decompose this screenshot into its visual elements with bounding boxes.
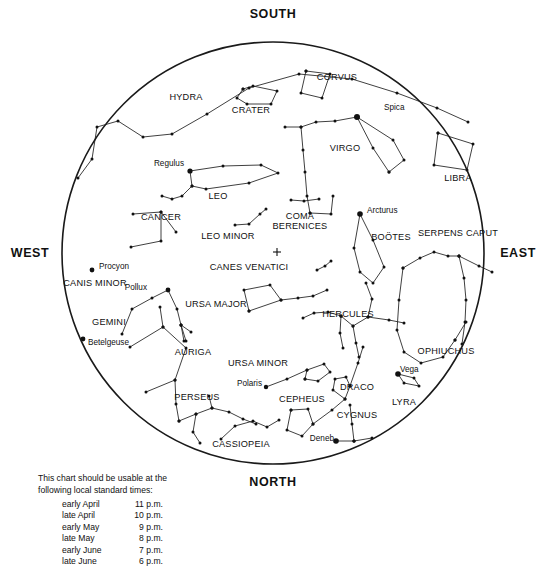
- star-point: [304, 171, 307, 174]
- star-point: [447, 255, 450, 258]
- legend-time-label: 11 p.m.: [135, 499, 163, 509]
- cardinal-label-west: WEST: [11, 246, 50, 260]
- star-point: [334, 120, 337, 123]
- star-point: [437, 132, 440, 135]
- star-point: [318, 198, 321, 201]
- star-point: [178, 420, 181, 423]
- star-label-betelgeuse: Betelgeuse: [88, 338, 129, 347]
- star-point: [396, 329, 399, 332]
- star-point: [206, 113, 209, 116]
- bright-star-pollux: [166, 288, 171, 293]
- star-point: [242, 418, 245, 421]
- star-point: [359, 271, 362, 274]
- star-point: [117, 120, 120, 123]
- star-point: [290, 199, 293, 202]
- star-point: [326, 289, 329, 292]
- cardinal-label-south: SOUTH: [250, 7, 297, 21]
- star-point: [236, 97, 239, 100]
- constellation-label-ursa-major: URSA MAJOR: [185, 299, 247, 309]
- star-point: [491, 271, 494, 274]
- star-point: [284, 126, 287, 129]
- bright-star-procyon: [90, 268, 95, 273]
- star-point: [419, 257, 422, 260]
- star-point: [332, 389, 335, 392]
- star-point: [252, 85, 255, 88]
- star-point: [433, 164, 436, 167]
- bright-star-arcturus: [357, 211, 363, 217]
- star-point: [321, 97, 324, 100]
- star-point: [402, 267, 405, 270]
- star-point: [365, 282, 368, 285]
- star-point: [313, 312, 316, 315]
- constellation-label-hercules: HERCULES: [322, 309, 374, 319]
- legend-time-label: 7 p.m.: [139, 545, 163, 555]
- star-point: [259, 213, 262, 216]
- star-point: [145, 391, 148, 394]
- constellation-label-canes-venatici: CANES VENATICI: [210, 262, 289, 272]
- star-point: [339, 332, 342, 335]
- star-point: [388, 319, 391, 322]
- star-point: [331, 409, 334, 412]
- star-point: [344, 398, 347, 401]
- star-point: [329, 371, 332, 374]
- star-point: [266, 426, 269, 429]
- star-point: [403, 159, 406, 162]
- star-point: [317, 380, 320, 383]
- constellation-label-gemini: GEMINI: [92, 317, 126, 327]
- star-point: [297, 297, 300, 300]
- star-point: [304, 378, 307, 381]
- star-point: [175, 231, 178, 234]
- constellation-label-leo-minor: LEO MINOR: [201, 231, 255, 241]
- star-point: [357, 362, 360, 365]
- star-point: [298, 73, 301, 76]
- star-point: [388, 171, 391, 174]
- star-point: [181, 195, 184, 198]
- star-point: [171, 198, 174, 201]
- star-point: [463, 277, 466, 280]
- star-point: [312, 295, 315, 298]
- star-point: [162, 326, 165, 329]
- star-point: [171, 133, 174, 136]
- star-point: [243, 289, 246, 292]
- star-label-deneb: Deneb: [310, 434, 335, 443]
- legend-period-label: early April: [62, 499, 100, 509]
- star-label-arcturus: Arcturus: [367, 206, 397, 215]
- star-point: [306, 369, 309, 372]
- star-point: [280, 299, 283, 302]
- star-point: [176, 308, 179, 311]
- constellation-label-ursa-minor: URSA MINOR: [228, 358, 288, 368]
- star-point: [418, 385, 421, 388]
- star-point: [334, 378, 337, 381]
- star-point: [302, 149, 305, 152]
- constellation-label-cygnus: CYGNUS: [337, 410, 378, 420]
- star-point: [352, 325, 355, 328]
- star-chart: HYDRACRATERCORVUSVIRGOLIBRALEOCANCERLEO …: [0, 0, 550, 572]
- legend-time-label: 6 p.m.: [139, 556, 163, 566]
- star-point: [403, 322, 406, 325]
- sky-map-svg: HYDRACRATERCORVUSVIRGOLIBRALEOCANCERLEO …: [0, 0, 550, 572]
- star-label-pollux: Pollux: [125, 283, 147, 292]
- legend-period-label: late April: [62, 510, 95, 520]
- star-point: [255, 423, 258, 426]
- star-point: [420, 362, 423, 365]
- star-point: [252, 420, 255, 423]
- constellation-label-draco: DRACO: [340, 382, 374, 392]
- star-label-regulus: Regulus: [154, 159, 184, 168]
- constellation-label-cancer: CANCER: [141, 212, 181, 222]
- constellation-label-corvus: CORVUS: [317, 72, 357, 82]
- star-point: [358, 356, 361, 359]
- star-point: [248, 87, 251, 90]
- star-point: [324, 265, 327, 268]
- star-label-polaris: Polaris: [237, 379, 262, 388]
- legend-time-label: 9 p.m.: [139, 522, 163, 532]
- star-point: [248, 310, 251, 313]
- constellation-label-ophiuchus: OPHIUCHUS: [418, 346, 475, 356]
- cardinal-label-east: EAST: [500, 246, 536, 260]
- star-point: [371, 298, 374, 301]
- star-point: [478, 265, 481, 268]
- star-point: [349, 404, 352, 407]
- star-point: [467, 121, 470, 124]
- star-label-vega: Vega: [400, 365, 419, 374]
- star-point: [403, 351, 406, 354]
- cardinal-label-north: NORTH: [249, 475, 296, 489]
